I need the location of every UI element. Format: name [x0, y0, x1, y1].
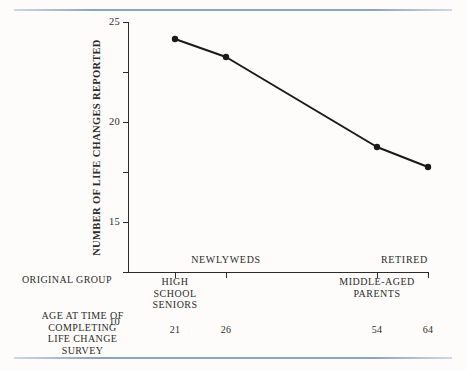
y-tick-label: 25 — [109, 17, 120, 28]
original-group-row-title: ORIGINAL GROUP — [22, 274, 112, 286]
data-point-marker — [223, 54, 229, 60]
data-point-marker — [374, 144, 380, 150]
age-label-4: 64 — [423, 324, 434, 335]
top-divider-rule — [14, 9, 452, 11]
data-point-marker — [425, 164, 431, 170]
category-label-2: NEWLYWEDS — [191, 254, 261, 265]
data-point-marker — [172, 36, 178, 42]
y-tick-label: 20 — [109, 117, 120, 128]
category-label-3: MIDDLE-AGEDPARENTS — [339, 276, 415, 299]
age-row-title: AGE AT TIME OFCOMPLETINGLIFE CHANGESURVE… — [30, 310, 135, 356]
plot-area: 2520151050 NEWLYWEDSRETIRED — [128, 22, 428, 272]
age-label-3: 54 — [372, 324, 383, 335]
data-series-svg — [128, 22, 428, 273]
y-tick-label: 15 — [109, 217, 120, 228]
age-label-2: 26 — [221, 324, 232, 335]
y-axis-title: NUMBER OF LIFE CHANGES REPORTED — [88, 22, 104, 272]
bottom-divider-rule — [14, 357, 452, 359]
category-label-1: HIGHSCHOOLSENIORS — [152, 276, 197, 311]
x-tick — [428, 272, 429, 278]
age-label-1: 21 — [170, 324, 181, 335]
category-label-4: RETIRED — [381, 254, 428, 265]
series-line — [175, 39, 428, 167]
figure-container: NUMBER OF LIFE CHANGES REPORTED 25201510… — [0, 0, 466, 370]
y-axis-title-text: NUMBER OF LIFE CHANGES REPORTED — [91, 39, 102, 256]
